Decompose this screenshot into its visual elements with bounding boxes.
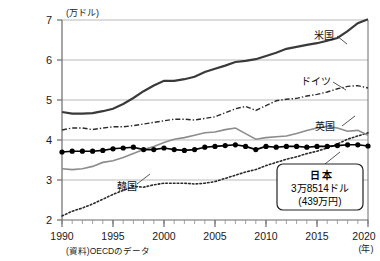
y-axis-unit-label: (万ドル) <box>66 8 99 18</box>
x-tick-label-2000: 2000 <box>152 230 176 242</box>
y-tick-label-7: 7 <box>46 14 52 26</box>
series-label-germany: ドイツ <box>301 76 331 87</box>
y-tick-label-6: 6 <box>46 54 52 66</box>
y-tick-label-5: 5 <box>46 94 52 106</box>
series-label-uk: 英国 <box>315 120 335 132</box>
chart-page: 7 6 5 4 3 2 (万ドル) 1990 1995 20 <box>0 0 380 261</box>
x-tick-label-1990: 1990 <box>50 230 74 242</box>
callout-value-jpy: (439万円) <box>298 196 341 207</box>
x-tick-label-2020: 2020 <box>352 230 376 242</box>
callout-value-usd: 3万8514ドル <box>291 183 349 194</box>
y-tick-label-2: 2 <box>46 214 52 226</box>
series-label-us: 米国 <box>314 29 334 41</box>
x-tick-label-2015: 2015 <box>305 230 329 242</box>
x-tick-label-2005: 2005 <box>203 230 227 242</box>
x-axis-unit-label: (年) <box>359 243 374 254</box>
y-tick-marks <box>57 20 62 220</box>
y-tick-label-3: 3 <box>46 174 52 186</box>
x-tick-label-2010: 2010 <box>254 230 278 242</box>
chart-plot-area: 7 6 5 4 3 2 (万ドル) 1990 1995 20 <box>0 0 380 261</box>
line-chart-svg: 7 6 5 4 3 2 (万ドル) 1990 1995 20 <box>0 0 380 261</box>
callout-country: 日本 <box>310 169 334 181</box>
x-tick-label-1995: 1995 <box>101 230 125 242</box>
series-label-korea: 韓国 <box>117 181 137 192</box>
x-major-tick-marks <box>62 220 368 227</box>
y-tick-label-4: 4 <box>46 134 52 146</box>
source-note: (資料)OECDのデータ <box>66 246 150 256</box>
